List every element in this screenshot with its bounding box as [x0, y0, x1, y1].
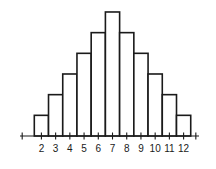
bar-5	[77, 53, 91, 136]
x-tick-label: 6	[96, 143, 102, 154]
x-tick-label: 9	[138, 143, 144, 154]
x-tick-label: 4	[67, 143, 73, 154]
bar-6	[91, 33, 105, 136]
x-tick-label: 5	[81, 143, 87, 154]
bar-4	[63, 74, 77, 136]
x-tick-label: 12	[178, 143, 190, 154]
histogram-bars	[34, 12, 190, 136]
x-tick-label: 2	[39, 143, 45, 154]
bar-7	[105, 12, 119, 136]
bar-8	[120, 33, 134, 136]
bar-10	[148, 74, 162, 136]
bar-11	[162, 95, 176, 136]
x-tick-label: 3	[53, 143, 59, 154]
x-tick-label: 8	[124, 143, 130, 154]
x-tick-label: 11	[164, 143, 175, 154]
x-axis-labels: 23456789101112	[39, 143, 190, 154]
bar-3	[49, 95, 63, 136]
bar-9	[134, 53, 148, 136]
x-tick-label: 7	[110, 143, 116, 154]
histogram-chart: 23456789101112	[0, 0, 216, 169]
x-tick-label: 10	[150, 143, 162, 154]
